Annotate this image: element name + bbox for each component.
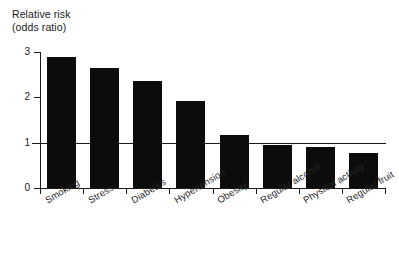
x-axis-tick [126,189,127,194]
x-axis-tick [342,189,343,194]
x-axis-tick [40,189,41,194]
x-axis-tick [213,189,214,194]
bar [90,68,119,188]
x-axis-tick [83,189,84,194]
y-axis-tick [34,97,40,98]
y-axis-tick-label: 2 [10,92,30,102]
y-axis-title: Relative risk (odds ratio) [12,8,70,33]
x-axis-tick [169,189,170,194]
reference-line [32,143,386,144]
y-axis-tick-label: 1 [10,138,30,148]
bar [176,101,205,188]
y-axis-title-line-1: Relative risk [12,8,70,21]
x-axis-tick [256,189,257,194]
relative-risk-bar-chart: Relative risk (odds ratio) 0123 SmokingS… [0,0,399,264]
x-axis-tick [385,189,386,194]
bar [133,81,162,188]
y-axis-tick-label: 3 [10,47,30,57]
x-axis-tick [299,189,300,194]
y-axis-tick [34,52,40,53]
bar [47,57,76,188]
y-axis-title-line-2: (odds ratio) [12,21,70,34]
y-axis-line [40,52,41,189]
y-axis-tick-label: 0 [10,183,30,193]
